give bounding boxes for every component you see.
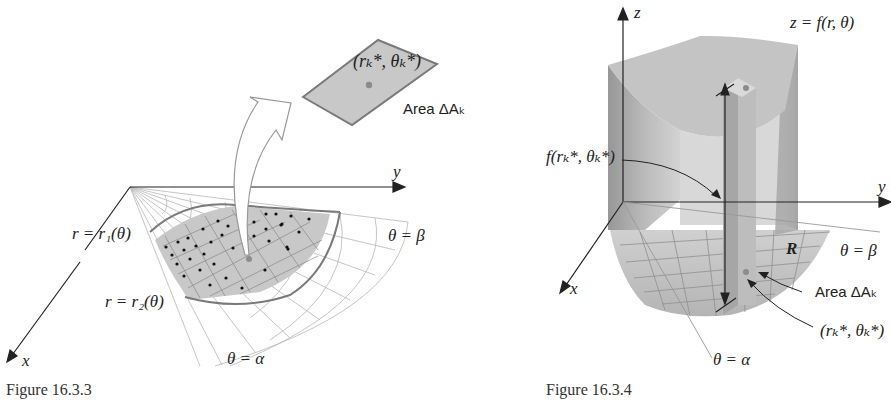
column-top-point (743, 85, 749, 91)
zoomed-sample-point (366, 82, 372, 88)
x-axis-lower (10, 262, 80, 358)
area-label: Area ΔAₖ (815, 284, 877, 299)
figure-16-3-3: (rₖ*, θₖ*) Area ΔAₖ y r = r₁(θ) θ = β r … (0, 0, 445, 400)
ray-alpha-label: θ = α (713, 351, 750, 368)
zoomed-point-label: (rₖ*, θₖ*) (353, 52, 421, 70)
ray-beta-label: θ = β (388, 227, 425, 244)
ray-beta-label: θ = β (840, 242, 877, 259)
figure-16-3-4: z z = f(r, θ) f(rₖ*, θₖ*) y R θ = β x Ar… (440, 0, 891, 400)
surface-label: z = f(r, θ) (790, 14, 854, 31)
x-axis-label: x (570, 280, 578, 297)
inner-curve-label: r = r₁(θ) (72, 225, 131, 242)
column-base-point (743, 269, 749, 275)
selected-sample-point (246, 256, 252, 262)
z-axis-label: z (634, 4, 641, 21)
height-label: f(rₖ*, θₖ*) (546, 148, 615, 165)
polar-volume-diagram (440, 0, 891, 400)
outer-curve-label: r = r₂(θ) (105, 293, 164, 310)
y-axis-label: y (878, 178, 886, 195)
figure-caption: Figure 16.3.4 (546, 382, 632, 398)
ray-alpha-label: θ = α (227, 350, 264, 367)
x-axis-label: x (22, 352, 30, 369)
figure-caption: Figure 16.3.3 (6, 382, 92, 398)
y-axis-label: y (393, 163, 401, 180)
region-label: R (786, 240, 797, 257)
sample-point-label: (rₖ*, θₖ*) (820, 322, 884, 339)
